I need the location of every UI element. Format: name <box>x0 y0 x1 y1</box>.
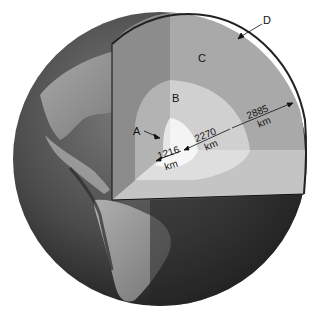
label-a: A <box>133 125 141 137</box>
arrow-d-pointer <box>240 24 262 37</box>
globe-shadow <box>150 195 307 314</box>
label-b: B <box>172 92 179 104</box>
label-c: C <box>198 52 206 64</box>
earth-cutaway-diagram: A B C D 1216 km 2270 km 2885 km <box>0 0 315 314</box>
label-d: D <box>263 14 271 26</box>
cutaway <box>112 13 306 200</box>
